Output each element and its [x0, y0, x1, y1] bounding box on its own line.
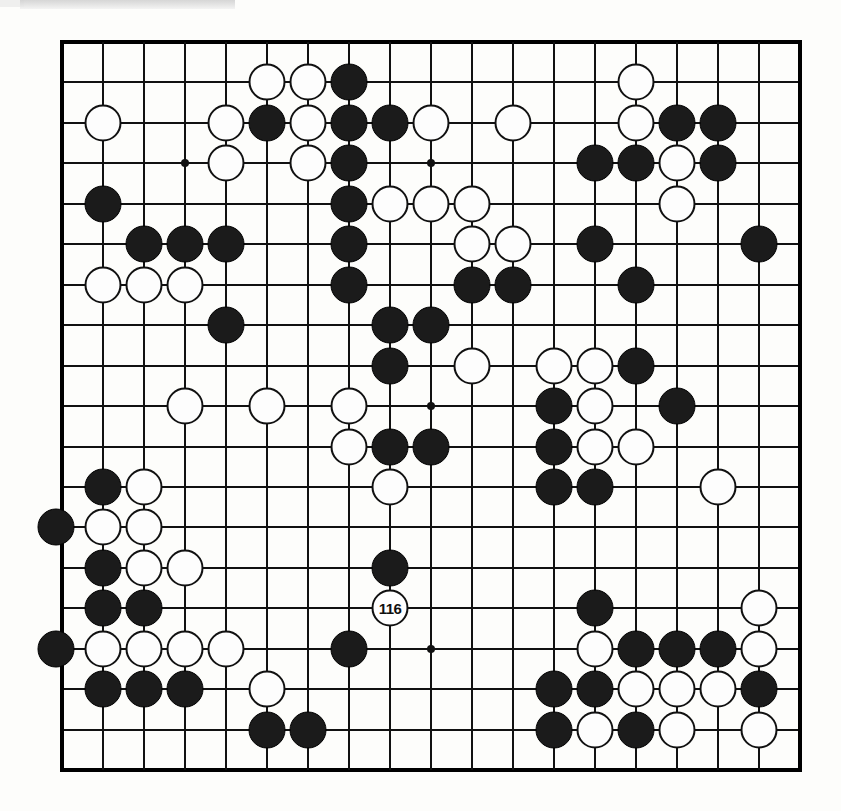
- black-stone[interactable]: [577, 145, 614, 182]
- black-stone[interactable]: [577, 671, 614, 708]
- white-stone[interactable]: [659, 671, 696, 708]
- black-stone[interactable]: [536, 468, 573, 505]
- black-stone[interactable]: [659, 388, 696, 425]
- black-stone[interactable]: [454, 266, 491, 303]
- white-stone[interactable]: [126, 630, 163, 667]
- black-stone[interactable]: [167, 671, 204, 708]
- black-stone[interactable]: [249, 711, 286, 748]
- white-stone[interactable]: [536, 347, 573, 384]
- black-stone[interactable]: [85, 185, 122, 222]
- white-stone[interactable]: [454, 347, 491, 384]
- black-stone[interactable]: [618, 630, 655, 667]
- white-stone[interactable]: [249, 64, 286, 101]
- black-stone[interactable]: [249, 104, 286, 141]
- white-stone[interactable]: [495, 104, 532, 141]
- black-stone[interactable]: [85, 549, 122, 586]
- black-stone[interactable]: [618, 711, 655, 748]
- move-number-marker[interactable]: 116: [372, 590, 409, 627]
- black-stone[interactable]: [167, 226, 204, 263]
- white-stone[interactable]: [700, 468, 737, 505]
- black-stone[interactable]: [618, 347, 655, 384]
- white-stone[interactable]: [454, 185, 491, 222]
- white-stone[interactable]: [290, 64, 327, 101]
- white-stone[interactable]: [577, 388, 614, 425]
- white-stone[interactable]: [372, 468, 409, 505]
- black-stone[interactable]: [372, 104, 409, 141]
- black-stone[interactable]: [208, 226, 245, 263]
- black-stone[interactable]: [85, 468, 122, 505]
- white-stone[interactable]: [167, 266, 204, 303]
- white-stone[interactable]: [331, 388, 368, 425]
- white-stone[interactable]: [167, 630, 204, 667]
- black-stone[interactable]: [577, 590, 614, 627]
- black-stone[interactable]: [331, 226, 368, 263]
- white-stone[interactable]: [659, 145, 696, 182]
- white-stone[interactable]: [85, 509, 122, 546]
- black-stone[interactable]: [208, 307, 245, 344]
- black-stone[interactable]: [536, 711, 573, 748]
- black-stone[interactable]: [372, 428, 409, 465]
- black-stone[interactable]: [495, 266, 532, 303]
- black-stone[interactable]: [618, 266, 655, 303]
- black-stone[interactable]: [331, 630, 368, 667]
- black-stone[interactable]: [741, 226, 778, 263]
- black-stone[interactable]: [85, 590, 122, 627]
- black-stone[interactable]: [700, 145, 737, 182]
- white-stone[interactable]: [413, 185, 450, 222]
- black-stone[interactable]: [38, 509, 75, 546]
- white-stone[interactable]: [167, 549, 204, 586]
- white-stone[interactable]: [577, 630, 614, 667]
- white-stone[interactable]: [495, 226, 532, 263]
- black-stone[interactable]: [659, 630, 696, 667]
- white-stone[interactable]: [126, 266, 163, 303]
- white-stone[interactable]: [454, 226, 491, 263]
- black-stone[interactable]: [126, 590, 163, 627]
- black-stone[interactable]: [372, 307, 409, 344]
- black-stone[interactable]: [700, 630, 737, 667]
- white-stone[interactable]: [290, 104, 327, 141]
- white-stone[interactable]: [249, 671, 286, 708]
- black-stone[interactable]: [741, 671, 778, 708]
- black-stone[interactable]: [126, 671, 163, 708]
- black-stone[interactable]: [659, 104, 696, 141]
- white-stone[interactable]: [700, 671, 737, 708]
- white-stone[interactable]: [126, 509, 163, 546]
- black-stone[interactable]: [331, 266, 368, 303]
- white-stone[interactable]: [659, 185, 696, 222]
- black-stone[interactable]: [413, 428, 450, 465]
- black-stone[interactable]: [536, 388, 573, 425]
- white-stone[interactable]: [126, 468, 163, 505]
- white-stone[interactable]: [577, 347, 614, 384]
- black-stone[interactable]: [536, 671, 573, 708]
- white-stone[interactable]: [413, 104, 450, 141]
- white-stone[interactable]: [618, 428, 655, 465]
- black-stone[interactable]: [38, 630, 75, 667]
- white-stone[interactable]: [249, 388, 286, 425]
- black-stone[interactable]: [331, 104, 368, 141]
- black-stone[interactable]: [331, 145, 368, 182]
- white-stone[interactable]: [618, 64, 655, 101]
- black-stone[interactable]: [372, 549, 409, 586]
- white-stone[interactable]: [577, 428, 614, 465]
- white-stone[interactable]: [208, 630, 245, 667]
- white-stone[interactable]: [208, 104, 245, 141]
- white-stone[interactable]: [577, 711, 614, 748]
- white-stone[interactable]: [167, 388, 204, 425]
- black-stone[interactable]: [85, 671, 122, 708]
- white-stone[interactable]: [331, 428, 368, 465]
- black-stone[interactable]: [331, 185, 368, 222]
- white-stone[interactable]: [372, 185, 409, 222]
- black-stone[interactable]: [618, 145, 655, 182]
- white-stone[interactable]: [85, 630, 122, 667]
- black-stone[interactable]: [700, 104, 737, 141]
- white-stone[interactable]: [659, 711, 696, 748]
- white-stone[interactable]: [618, 671, 655, 708]
- black-stone[interactable]: [290, 711, 327, 748]
- white-stone[interactable]: [208, 145, 245, 182]
- white-stone[interactable]: [741, 590, 778, 627]
- black-stone[interactable]: [331, 64, 368, 101]
- white-stone[interactable]: [126, 549, 163, 586]
- black-stone[interactable]: [577, 226, 614, 263]
- white-stone[interactable]: [85, 266, 122, 303]
- go-board[interactable]: 116: [0, 0, 841, 811]
